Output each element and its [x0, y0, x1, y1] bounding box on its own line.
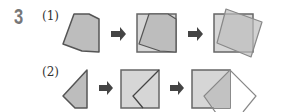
part-1-square-with-pentagon [137, 14, 176, 52]
part-1-square-with-rotated-square [214, 9, 262, 57]
part-2-square-with-shape [121, 70, 159, 108]
part-1-pentagon [63, 14, 99, 52]
part-2-square-with-rotated-square [192, 70, 256, 112]
arrow-icon [111, 27, 126, 41]
part-2-shape [63, 70, 87, 108]
arrow-icon [170, 81, 184, 95]
arrow-icon [99, 81, 113, 95]
arrow-icon [188, 27, 203, 41]
diagram-canvas [0, 0, 281, 112]
